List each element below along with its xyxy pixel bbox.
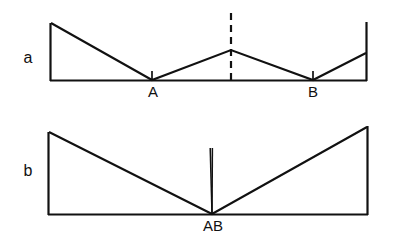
panel-a: a A B: [24, 13, 367, 100]
panel-b: b AB: [24, 126, 368, 234]
panel-a-label: a: [24, 49, 33, 66]
figure-root: a A B b AB: [0, 0, 395, 245]
panel-a-point-label-a: A: [148, 83, 158, 100]
panel-a-point-label-b: B: [308, 83, 318, 100]
panel-a-profile: [51, 23, 366, 80]
panel-b-profile: [49, 127, 367, 214]
panel-b-label: b: [24, 162, 33, 179]
panel-b-point-label-ab: AB: [203, 217, 223, 234]
diagram-canvas: a A B b AB: [0, 0, 395, 245]
